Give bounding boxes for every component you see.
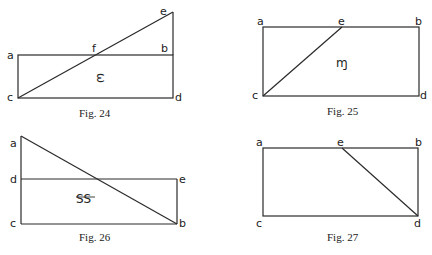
label-a: a — [256, 136, 263, 149]
figures-canvas: a b c d e f ω Fig. 24 a b c d e ɱ Fig. 2… — [0, 0, 432, 255]
rectangle-abdc — [263, 148, 418, 216]
symbol-m: ɱ — [336, 56, 348, 70]
label-e: e — [179, 173, 186, 186]
label-c: c — [256, 217, 262, 230]
label-c: c — [10, 217, 16, 230]
label-d: d — [420, 89, 427, 102]
label-f: f — [92, 42, 97, 55]
label-a: a — [10, 137, 17, 150]
figure-26: a d c e b SS Fig. 26 — [10, 136, 186, 243]
figure-25: a b c d e ɱ Fig. 25 — [252, 15, 427, 117]
label-d: d — [175, 91, 182, 104]
figure-24: a b c d e f ω Fig. 24 — [7, 5, 182, 119]
label-b: b — [415, 136, 422, 149]
label-b: b — [161, 42, 168, 55]
symbol-s: ω — [94, 73, 108, 83]
line-ce — [263, 27, 342, 96]
caption: Fig. 24 — [79, 107, 111, 119]
label-e: e — [337, 136, 344, 149]
label-b: b — [415, 15, 422, 28]
line-ed — [342, 148, 418, 216]
label-c: c — [7, 91, 13, 104]
label-d: d — [414, 217, 421, 230]
line-ab — [21, 136, 177, 224]
label-e: e — [160, 5, 167, 18]
figure-27: a b c d e Fig. 27 — [256, 136, 422, 243]
label-b: b — [179, 217, 186, 230]
caption: Fig. 27 — [327, 231, 359, 243]
label-a: a — [257, 15, 264, 28]
label-d: d — [10, 173, 17, 186]
symbol-ss: SS — [76, 192, 91, 206]
label-e: e — [338, 15, 345, 28]
label-c: c — [252, 89, 258, 102]
caption: Fig. 26 — [79, 231, 111, 243]
label-a: a — [7, 49, 14, 62]
caption: Fig. 25 — [327, 105, 359, 117]
